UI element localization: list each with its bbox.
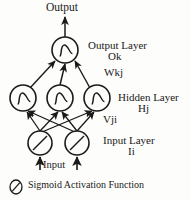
hidden-symbol-label: Hj — [138, 103, 149, 114]
legend-sigmoid-circle-icon — [10, 180, 22, 194]
weights-wkj-label: Wkj — [104, 67, 123, 78]
hidden-to-output-connections — [30, 61, 90, 88]
output-symbol-label: Ok — [108, 51, 121, 62]
neural-network-figure: Output Output Layer Ok Wkj Hidden Layer … — [0, 0, 190, 200]
output-top-label: Output — [46, 2, 78, 14]
node-output-o1[interactable] — [52, 37, 78, 63]
input-to-hidden-connections — [27, 111, 94, 132]
node-input-i2[interactable] — [65, 131, 89, 155]
input-bottom-label: Input — [43, 160, 65, 171]
node-hidden-h1[interactable] — [10, 85, 36, 111]
legend-text: Sigmoid Activation Function — [28, 180, 144, 190]
node-input-i1[interactable] — [28, 131, 52, 155]
input-symbol-label: Ii — [128, 146, 135, 157]
node-hidden-h2[interactable] — [47, 85, 73, 111]
weights-vji-label: Vji — [103, 114, 117, 125]
node-hidden-h3[interactable] — [84, 85, 110, 111]
